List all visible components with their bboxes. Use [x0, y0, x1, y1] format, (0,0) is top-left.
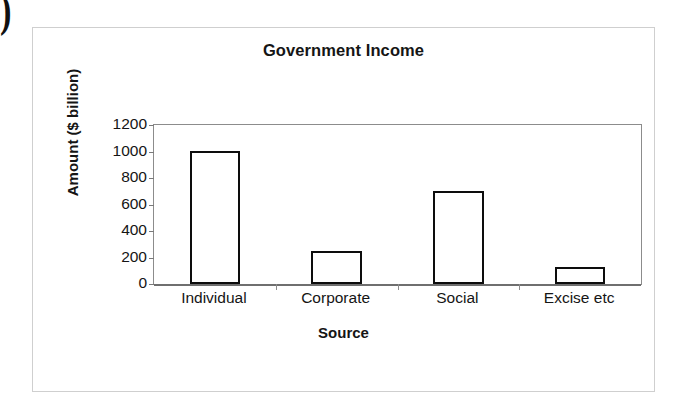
x-axis-tick-label: Individual	[153, 290, 275, 306]
y-axis-tick-mark	[149, 205, 154, 206]
y-axis-tick-label: 800	[91, 169, 147, 185]
x-axis-tick-labels: IndividualCorporateSocialExcise etc	[153, 290, 640, 314]
x-axis-tick-label: Corporate	[275, 290, 397, 306]
x-axis-tick-label: Social	[397, 290, 519, 306]
y-axis-tick-mark	[149, 284, 154, 285]
y-axis-tick-label: 400	[91, 222, 147, 238]
bar-corporate[interactable]	[311, 251, 362, 284]
x-axis-title: Source	[33, 324, 654, 341]
y-axis-tick-label: 1000	[91, 143, 147, 159]
y-axis-tick-label: 1200	[91, 116, 147, 132]
bar-excise-etc[interactable]	[555, 267, 606, 284]
bar-individual[interactable]	[190, 151, 241, 284]
y-axis-tick-mark	[149, 125, 154, 126]
y-axis-title: Amount ($ billion)	[64, 48, 81, 218]
y-axis-tick-mark	[149, 231, 154, 232]
y-axis-tick-label: 200	[91, 249, 147, 265]
x-axis-tick-label: Excise etc	[518, 290, 640, 306]
y-axis-tick-label: 0	[91, 275, 147, 291]
y-axis-tick-mark	[149, 152, 154, 153]
bar-social[interactable]	[433, 191, 484, 284]
y-axis-tick-mark	[149, 258, 154, 259]
plot-area	[153, 124, 642, 285]
y-axis-tick-labels: 120010008006004002000	[91, 116, 147, 276]
chart-title: Government Income	[33, 41, 654, 60]
stray-paren-glyph: )	[0, 0, 11, 34]
chart-frame: Government Income Amount ($ billion) 120…	[32, 27, 655, 392]
y-axis-tick-label: 600	[91, 196, 147, 212]
y-axis-tick-mark	[149, 178, 154, 179]
